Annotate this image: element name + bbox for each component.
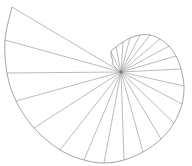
spiral-ray <box>7 72 121 73</box>
spiral-ray <box>60 72 121 150</box>
spiral-ray <box>84 72 121 160</box>
spiral-diagram <box>0 0 192 166</box>
spiral-ray <box>121 39 160 72</box>
spiral-ray <box>104 72 121 163</box>
spiral-ray <box>121 72 124 160</box>
spiral-ray <box>16 72 121 101</box>
spiral-ray <box>5 40 121 72</box>
spiral-outline <box>5 7 184 163</box>
spiral-rays <box>5 7 184 163</box>
spiral-ray <box>121 72 174 123</box>
spiral-ray <box>121 72 143 152</box>
spiral-ray <box>34 72 121 128</box>
spiral-center <box>120 71 123 74</box>
spiral-ray <box>121 72 184 86</box>
spiral-ray <box>12 7 121 72</box>
spiral-ray <box>121 46 169 72</box>
